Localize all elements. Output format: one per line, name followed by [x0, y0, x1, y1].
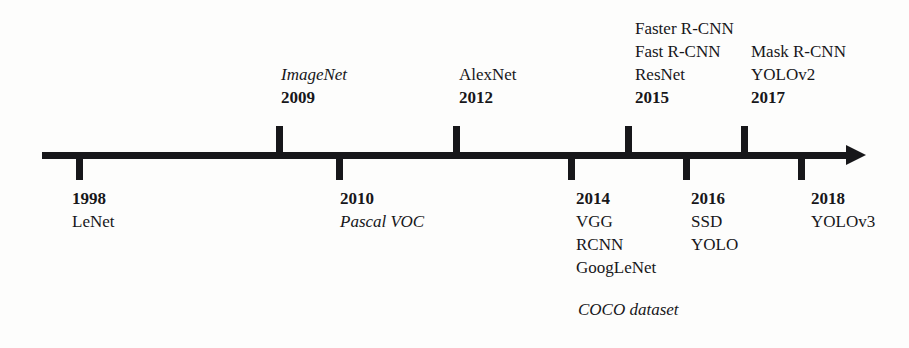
event-name-resnet: ResNet: [635, 63, 734, 86]
event-year-2015: 2015: [635, 86, 734, 109]
event-label-2017: Mask R-CNN YOLOv2 2017: [751, 40, 846, 109]
tick-2015: [625, 126, 632, 154]
event-label-2016: 2016 SSD YOLO: [691, 187, 738, 256]
event-name-alexnet: AlexNet: [459, 63, 517, 86]
event-name-yolov3: YOLOv3: [811, 210, 875, 233]
tick-2018: [798, 157, 805, 180]
event-name-rcnn: RCNN: [576, 233, 656, 256]
event-name-fast-rcnn: Fast R-CNN: [635, 40, 734, 63]
timeline-axis-line: [42, 152, 854, 159]
note-coco-dataset: COCO dataset: [578, 300, 679, 320]
event-label-2015: Faster R-CNN Fast R-CNN ResNet 2015: [635, 17, 734, 109]
event-label-2009: ImageNet 2009: [281, 63, 347, 109]
event-label-2010: 2010 Pascal VOC: [340, 187, 424, 233]
event-name-vgg: VGG: [576, 210, 656, 233]
event-year-2012: 2012: [459, 86, 517, 109]
event-name-imagenet: ImageNet: [281, 63, 347, 86]
timeline-diagram: ImageNet 2009 AlexNet 2012 Faster R-CNN …: [0, 0, 909, 348]
event-name-yolo: YOLO: [691, 233, 738, 256]
event-year-2010: 2010: [340, 187, 424, 210]
event-name-faster-rcnn: Faster R-CNN: [635, 17, 734, 40]
tick-2012: [453, 126, 460, 154]
tick-2010: [336, 157, 343, 180]
event-year-2017: 2017: [751, 86, 846, 109]
event-label-2018: 2018 YOLOv3: [811, 187, 875, 233]
tick-2016: [683, 157, 690, 180]
event-year-2009: 2009: [281, 86, 347, 109]
tick-2017: [741, 126, 748, 154]
event-name-pascal-voc: Pascal VOC: [340, 210, 424, 233]
tick-2014: [568, 157, 575, 180]
event-year-1998: 1998: [72, 187, 114, 210]
event-label-1998: 1998 LeNet: [72, 187, 114, 233]
event-year-2018: 2018: [811, 187, 875, 210]
event-name-googlenet: GoogLeNet: [576, 256, 656, 279]
tick-1998: [76, 157, 83, 180]
event-year-2016: 2016: [691, 187, 738, 210]
event-name-yolov2: YOLOv2: [751, 63, 846, 86]
event-name-mask-rcnn: Mask R-CNN: [751, 40, 846, 63]
timeline-arrow-icon: [846, 145, 866, 165]
event-name-ssd: SSD: [691, 210, 738, 233]
event-name-lenet: LeNet: [72, 210, 114, 233]
tick-2009: [276, 126, 283, 154]
event-year-2014: 2014: [576, 187, 656, 210]
event-label-2014: 2014 VGG RCNN GoogLeNet: [576, 187, 656, 279]
event-label-2012: AlexNet 2012: [459, 63, 517, 109]
